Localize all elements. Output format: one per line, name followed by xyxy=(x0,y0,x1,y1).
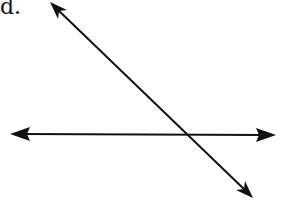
horizontal-line xyxy=(10,127,276,142)
right-arrowhead-icon xyxy=(256,128,276,142)
left-arrowhead-icon xyxy=(10,127,30,141)
intersecting-lines-diagram xyxy=(0,0,281,206)
diagonal-line xyxy=(50,2,253,198)
